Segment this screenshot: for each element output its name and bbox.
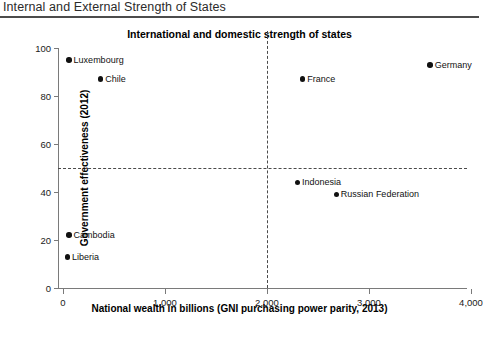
y-tick-mark bbox=[54, 96, 59, 97]
page-title: Internal and External Strength of States bbox=[3, 0, 226, 14]
x-tick-mark bbox=[165, 289, 166, 294]
y-tick-label: 60 bbox=[40, 139, 51, 150]
y-tick-label: 40 bbox=[40, 187, 51, 198]
data-point-label: Liberia bbox=[72, 252, 99, 262]
plot-area: 020406080100 01,0002,0003,0004,000 Luxem… bbox=[58, 48, 466, 288]
data-point-label: Chile bbox=[105, 74, 126, 84]
x-axis-line bbox=[58, 288, 467, 289]
x-axis-label: National wealth in billions (GNI purchas… bbox=[0, 303, 479, 314]
vertical-reference-line bbox=[267, 31, 268, 288]
data-point-marker bbox=[66, 232, 72, 238]
y-tick-label: 80 bbox=[40, 91, 51, 102]
x-tick-mark bbox=[267, 289, 268, 294]
y-tick-mark bbox=[54, 144, 59, 145]
data-point-label: Germany bbox=[435, 60, 472, 70]
data-point-marker bbox=[295, 180, 301, 186]
y-tick-label: 20 bbox=[40, 235, 51, 246]
data-point-label: Luxembourg bbox=[74, 55, 124, 65]
scatter-chart-figure: International and domestic strength of s… bbox=[0, 18, 479, 326]
data-point-marker bbox=[334, 192, 340, 198]
x-tick-mark bbox=[369, 289, 370, 294]
y-axis-label: Government effectiveness (2012) bbox=[79, 90, 90, 247]
y-tick-label: 100 bbox=[35, 43, 51, 54]
data-point-marker bbox=[427, 62, 433, 68]
data-point-marker bbox=[98, 76, 104, 82]
y-tick-label: 0 bbox=[46, 283, 51, 294]
y-tick-mark bbox=[54, 288, 59, 289]
data-point-marker bbox=[300, 76, 306, 82]
data-point-marker bbox=[65, 254, 71, 260]
data-point-label: France bbox=[307, 74, 335, 84]
y-tick-mark bbox=[54, 192, 59, 193]
x-tick-mark bbox=[63, 289, 64, 294]
horizontal-reference-line bbox=[58, 168, 467, 169]
data-point-label: Russian Federation bbox=[341, 189, 419, 199]
data-point-label: Indonesia bbox=[302, 177, 341, 187]
data-point-marker bbox=[66, 57, 72, 63]
y-tick-mark bbox=[54, 240, 59, 241]
x-tick-mark bbox=[471, 289, 472, 294]
y-tick-mark bbox=[54, 48, 59, 49]
chart-title: International and domestic strength of s… bbox=[0, 28, 479, 40]
